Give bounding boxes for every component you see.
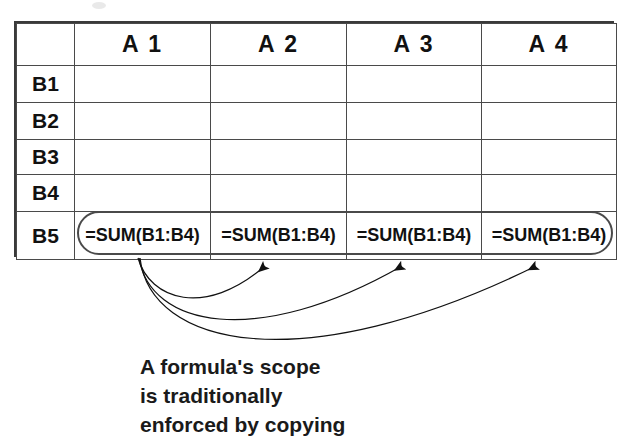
spreadsheet-table: A 1 A 2 A 3 A 4 B1 B2 xyxy=(16,23,617,260)
cell-a4-b2[interactable] xyxy=(482,103,617,140)
figure-canvas: A 1 A 2 A 3 A 4 B1 B2 xyxy=(0,0,630,442)
cell-a4-b3[interactable] xyxy=(482,140,617,175)
copy-arrow-to-a4 xyxy=(140,258,536,339)
table-row: B1 xyxy=(17,66,617,103)
table-row: B5 =SUM(B1:B4) =SUM(B1:B4) =SUM(B1:B4) =… xyxy=(17,212,617,260)
cell-a2-b4[interactable] xyxy=(211,175,347,212)
grid-corner-cell xyxy=(17,24,75,66)
spreadsheet-grid: A 1 A 2 A 3 A 4 B1 B2 xyxy=(14,21,614,257)
table-row: B2 xyxy=(17,103,617,140)
row-header-b2[interactable]: B2 xyxy=(17,103,75,140)
cell-a1-b5-formula[interactable]: =SUM(B1:B4) xyxy=(75,212,211,260)
cell-a1-b3[interactable] xyxy=(75,140,211,175)
copy-arrow-to-a2 xyxy=(138,258,265,298)
cell-a3-b2[interactable] xyxy=(347,103,482,140)
row-header-b4[interactable]: B4 xyxy=(17,175,75,212)
cell-a3-b4[interactable] xyxy=(347,175,482,212)
caption-text: A formula's scope is traditionally enfor… xyxy=(140,352,560,439)
cell-a2-b5-formula[interactable]: =SUM(B1:B4) xyxy=(211,212,347,260)
cell-a2-b3[interactable] xyxy=(211,140,347,175)
cell-a2-b1[interactable] xyxy=(211,66,347,103)
caption-line-1: A formula's scope xyxy=(140,352,560,381)
row-header-b1[interactable]: B1 xyxy=(17,66,75,103)
cell-a4-b5-formula[interactable]: =SUM(B1:B4) xyxy=(482,212,617,260)
row-header-b5[interactable]: B5 xyxy=(17,212,75,260)
caption-line-3: enforced by copying xyxy=(140,410,560,439)
cell-a3-b5-formula[interactable]: =SUM(B1:B4) xyxy=(347,212,482,260)
cell-a2-b2[interactable] xyxy=(211,103,347,140)
column-header-a2[interactable]: A 2 xyxy=(211,24,347,66)
copy-arrow-to-a3 xyxy=(139,258,402,320)
cell-a1-b1[interactable] xyxy=(75,66,211,103)
column-header-a4[interactable]: A 4 xyxy=(482,24,617,66)
cell-a1-b4[interactable] xyxy=(75,175,211,212)
column-header-a1[interactable]: A 1 xyxy=(75,24,211,66)
cell-a3-b1[interactable] xyxy=(347,66,482,103)
cell-a4-b1[interactable] xyxy=(482,66,617,103)
table-row: B4 xyxy=(17,175,617,212)
row-header-b3[interactable]: B3 xyxy=(17,140,75,175)
column-header-a3[interactable]: A 3 xyxy=(347,24,482,66)
cell-a4-b4[interactable] xyxy=(482,175,617,212)
table-row: B3 xyxy=(17,140,617,175)
column-header-row: A 1 A 2 A 3 A 4 xyxy=(17,24,617,66)
caption-line-2: is traditionally xyxy=(140,381,560,410)
scan-artifact-smudge xyxy=(92,2,106,9)
cell-a3-b3[interactable] xyxy=(347,140,482,175)
cell-a1-b2[interactable] xyxy=(75,103,211,140)
